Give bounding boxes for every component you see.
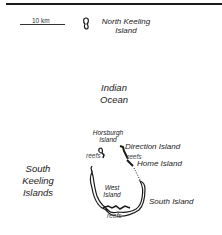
home-island-label: Home Island <box>137 159 182 168</box>
east-rim-dotted <box>134 168 140 180</box>
west-island-line2: Island <box>98 191 126 198</box>
north-keeling-line2: Island <box>96 26 156 35</box>
south-keeling-line2: Keeling <box>18 175 58 187</box>
ocean-label: Indian Ocean <box>92 82 136 106</box>
north-keeling-label: North Keeling Island <box>96 17 156 35</box>
west-island-label: West Island <box>98 184 126 198</box>
reefs-label-north: reefs <box>86 152 100 159</box>
horsburgh-label: Horsburgh Island <box>91 129 125 143</box>
home-island-shape <box>127 160 133 166</box>
horsburgh-line1: Horsburgh <box>91 129 125 136</box>
ocean-line1: Indian <box>92 82 136 94</box>
direction-island-label: Direction Island <box>125 142 180 151</box>
horsburgh-reef <box>102 153 104 158</box>
south-keeling-label: South Keeling Islands <box>18 163 58 199</box>
west-island-line1: West <box>98 184 126 191</box>
south-island-label: South Island <box>149 197 193 206</box>
west-island-inner <box>91 166 92 172</box>
ocean-line2: Ocean <box>92 94 136 106</box>
north-keeling-line1: North Keeling <box>96 17 156 26</box>
reefs-label-south: reefs <box>107 212 121 219</box>
south-keeling-line3: Islands <box>18 187 58 199</box>
horsburgh-line2: Island <box>91 136 125 143</box>
north-keeling-island-shape <box>84 18 89 29</box>
south-keeling-line1: South <box>18 163 58 175</box>
